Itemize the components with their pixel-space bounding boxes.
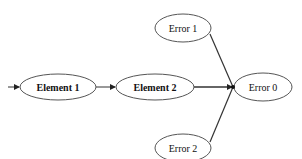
node-element2-label: Element 2 xyxy=(133,82,176,93)
edge-error1-to-error0 xyxy=(210,34,233,87)
node-element1[interactable]: Element 1 xyxy=(20,74,96,100)
node-error0[interactable]: Error 0 xyxy=(234,73,292,101)
node-error2[interactable]: Error 2 xyxy=(155,134,211,159)
flow-diagram: Element 1 Element 2 Error 0 Error 1 Erro… xyxy=(0,0,302,159)
node-error1[interactable]: Error 1 xyxy=(155,14,211,42)
node-error1-label: Error 1 xyxy=(169,23,198,34)
node-error2-label: Error 2 xyxy=(169,143,198,154)
node-error0-label: Error 0 xyxy=(249,82,278,93)
node-element2[interactable]: Element 2 xyxy=(116,74,194,100)
edge-error2-to-error0 xyxy=(210,87,233,142)
junction-point xyxy=(231,85,235,89)
node-element1-label: Element 1 xyxy=(36,82,79,93)
